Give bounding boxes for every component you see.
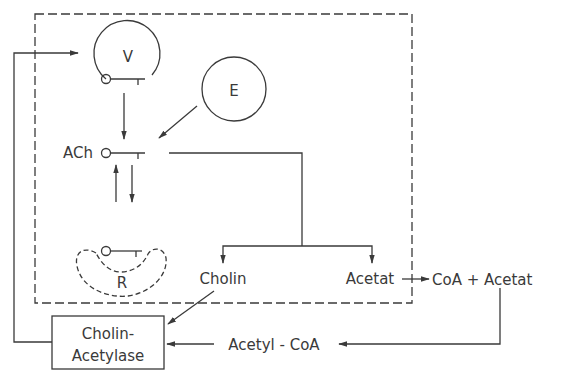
cholin-acetylase-label-line1: Cholin- <box>82 325 134 343</box>
vesicle-ach-symbol <box>102 75 146 86</box>
hydrolysis-line <box>169 153 302 246</box>
coa-acetat-label: CoA + Acetat <box>432 271 533 289</box>
vesicle-label: V <box>123 48 134 66</box>
arrow-to-acetyl-coa <box>339 288 500 344</box>
ach-symbol <box>102 149 146 160</box>
receptor-ach-symbol <box>102 247 143 258</box>
acetyl-coa-label: Acetyl - CoA <box>228 336 320 354</box>
enzyme-label: E <box>229 82 238 100</box>
arrow-to-cholin <box>223 246 302 263</box>
arrow-cholin-to-enzyme <box>168 291 214 324</box>
arrow-to-acetat <box>302 246 372 263</box>
arrow-enzyme-to-vesicle <box>14 53 78 342</box>
diagram-canvas: V E ACh R Cholin Acetat CoA + Acetat Ace… <box>0 0 564 379</box>
receptor-label: R <box>117 274 127 292</box>
ach-label: ACh <box>63 144 93 162</box>
acetat-label: Acetat <box>346 270 395 288</box>
arrow-enzyme-to-ach <box>159 106 197 138</box>
cholin-acetylase-label-line2: Acetylase <box>72 347 145 365</box>
cholin-label: Cholin <box>200 270 247 288</box>
